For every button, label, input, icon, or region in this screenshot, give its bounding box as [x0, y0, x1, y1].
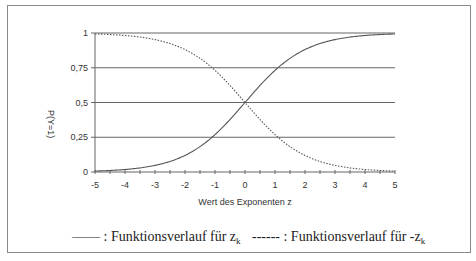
- y-tick-label: 0: [83, 167, 88, 177]
- legend-item-dotted: ------ : Funktionsverlauf für -zk: [252, 229, 425, 246]
- x-tick-label: -2: [181, 180, 189, 190]
- legend-dotted-symbol: ------: [252, 229, 280, 244]
- x-tick-label: -4: [121, 180, 129, 190]
- y-tick-label: 0,5: [75, 98, 88, 108]
- x-tick-label: 3: [332, 180, 337, 190]
- legend-solid-text: : Funktionsverlauf für z: [100, 229, 236, 244]
- y-tick-label: 1: [83, 28, 88, 38]
- x-axis-ticks: -5-4-3-2-1012345: [91, 170, 398, 190]
- legend-dotted-text: : Funktionsverlauf für -z: [280, 229, 421, 244]
- x-tick-label: 2: [302, 180, 307, 190]
- x-tick-label: 5: [392, 180, 397, 190]
- x-axis-label: Wert des Exponenten z: [198, 197, 292, 207]
- x-tick-label: 0: [242, 180, 247, 190]
- logistic-chart: 00,250,50,751 -5-4-3-2-1012345 Wert des …: [0, 0, 476, 261]
- legend-solid-sub: k: [236, 236, 241, 246]
- x-tick-label: -5: [91, 180, 99, 190]
- y-tick-label: 0,25: [70, 132, 88, 142]
- y-axis-ticks: 00,250,50,751: [70, 28, 95, 177]
- grid-lines: [95, 33, 395, 137]
- y-axis-label: P(Y=1): [46, 110, 56, 138]
- x-tick-label: 4: [362, 180, 367, 190]
- x-tick-label: 1: [272, 180, 277, 190]
- x-tick-label: -3: [151, 180, 159, 190]
- y-tick-label: 0,75: [70, 63, 88, 73]
- legend-item-solid: —— : Funktionsverlauf für zk: [72, 229, 241, 246]
- legend-solid-symbol: ——: [72, 229, 100, 244]
- x-tick-label: -1: [211, 180, 219, 190]
- legend-dotted-sub: k: [421, 236, 426, 246]
